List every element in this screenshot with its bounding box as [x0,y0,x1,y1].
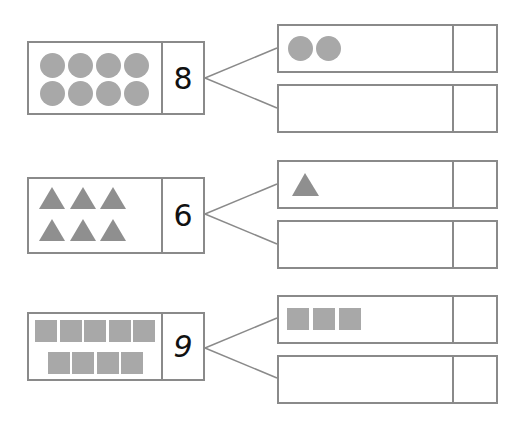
square-shape [313,308,335,330]
square-shape [121,352,143,374]
circle-shape [40,81,65,106]
square-shape [339,308,361,330]
triangle-shape [39,187,65,209]
triangle-shape [70,219,96,241]
whole-number: 9 [163,314,203,379]
square-shape [72,352,94,374]
part-box-missing [277,220,498,269]
part-answer-cell[interactable] [454,357,496,402]
part-box-missing [277,355,498,404]
circle-shape [288,36,313,61]
part-box-given [277,295,498,344]
part-answer-cell[interactable] [454,162,496,207]
circle-shape [124,53,149,78]
number-bond-whole-box-9: 9 [27,312,205,381]
number-bond-whole-box-8: 8 [27,41,205,115]
part-box-missing [277,84,498,133]
triangle-shape [100,219,126,241]
square-shape [60,320,82,342]
part-box-given [277,160,498,209]
whole-number: 8 [163,43,203,113]
triangle-shape [39,219,65,241]
circle-shape [68,53,93,78]
whole-number: 6 [163,179,203,252]
square-shape [35,320,57,342]
square-shape [97,352,119,374]
circle-shape [124,81,149,106]
triangle-group [29,179,159,252]
square-shape [133,320,155,342]
part-answer-cell[interactable] [454,26,496,71]
part-answer-cell[interactable] [454,222,496,267]
triangle-shape [70,187,96,209]
part-box-given [277,24,498,73]
part-answer-cell[interactable] [454,297,496,342]
circle-shape [40,53,65,78]
number-bond-whole-box-6: 6 [27,177,205,254]
square-shape [109,320,131,342]
circle-shape [68,81,93,106]
circle-shape [96,81,121,106]
triangle-shape [279,162,339,207]
part-answer-cell[interactable] [454,86,496,131]
square-shape [84,320,106,342]
square-shape [48,352,70,374]
circle-shape [316,36,341,61]
square-shape [287,308,309,330]
triangle-shape [100,187,126,209]
circle-shape [96,53,121,78]
